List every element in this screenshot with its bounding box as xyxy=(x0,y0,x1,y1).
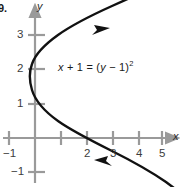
y-tick-label-1: 1 xyxy=(17,98,23,110)
x-tick-label-2: 2 xyxy=(84,148,90,160)
curve-equation-label: x + 1 = (y − 1)2 xyxy=(58,62,134,73)
x-tick-label--1: −1 xyxy=(3,148,16,160)
y-tick-label-3: 3 xyxy=(17,29,23,41)
x-tick-label-3: 3 xyxy=(110,148,116,160)
parabola-figure: 9. x y −1 2 3 4 5 3 2 1 −1 x + 1 = (y − … xyxy=(0,0,187,187)
exercise-number: 9. xyxy=(0,3,7,14)
y-tick-label--1: −1 xyxy=(11,166,24,178)
equation-plus: + xyxy=(64,61,77,73)
x-tick-label-5: 5 xyxy=(159,148,165,160)
direction-arrow-upper xyxy=(92,25,110,35)
equation-exponent: 2 xyxy=(129,59,133,68)
x-axis-label: x xyxy=(173,131,179,142)
equation-minus: − xyxy=(106,61,119,73)
y-axis-label: y xyxy=(37,1,43,12)
x-tick-label-4: 4 xyxy=(136,148,142,160)
equation-equals: = xyxy=(83,61,96,73)
y-tick-label-2: 2 xyxy=(17,63,23,75)
